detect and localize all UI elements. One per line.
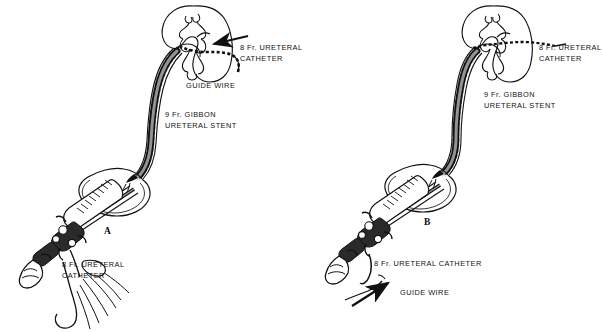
panel-a-ureteral-catheter-lower-label: 8 Fr. URETERAL CATHETER bbox=[62, 260, 125, 281]
label-line: 8 Fr. URETERAL bbox=[62, 260, 125, 271]
cystoscope-eyepiece bbox=[19, 243, 58, 289]
kidney-outline bbox=[162, 6, 232, 82]
ureteral-catheter-a bbox=[181, 36, 248, 72]
label-line: CATHETER bbox=[240, 54, 303, 65]
label-line: 8 Fr. URETERAL bbox=[240, 43, 303, 54]
panel-b-ureteral-catheter-label: 8 Fr. URETERAL CATHETER bbox=[539, 43, 602, 64]
ureteral-catheter-curl-b bbox=[360, 254, 371, 284]
panel-a-illustration bbox=[19, 6, 248, 329]
cystoscope-eyepiece bbox=[325, 239, 364, 285]
panel-a-ureteral-catheter-label: 8 Fr. URETERAL CATHETER bbox=[240, 43, 303, 64]
label-line: 8 Fr. URETERAL CATHETER bbox=[374, 259, 482, 270]
kidney-outline bbox=[462, 6, 532, 82]
panel-a-letter: A bbox=[104, 226, 111, 236]
panel-b-guide-wire-label: GUIDE WIRE bbox=[400, 288, 449, 299]
label-line: CATHETER bbox=[539, 54, 602, 65]
renal-calyces bbox=[176, 14, 206, 80]
label-line: 8 Fr. URETERAL bbox=[539, 43, 602, 54]
cystoscope-barrel bbox=[64, 180, 123, 229]
label-line: GUIDE WIRE bbox=[400, 288, 449, 299]
panel-b-letter: B bbox=[424, 217, 430, 227]
cystoscope-barrel bbox=[370, 176, 429, 225]
ureter-outline bbox=[440, 49, 482, 175]
label-line: 9 Fr. GIBBON bbox=[165, 110, 237, 121]
medical-illustration-figure: 8 Fr. URETERAL CATHETER GUIDE WIRE 9 Fr.… bbox=[0, 0, 603, 332]
label-line: 9 Fr. GIBBON bbox=[484, 90, 556, 101]
panel-a-guide-wire-label: GUIDE WIRE bbox=[186, 81, 235, 92]
label-line: GUIDE WIRE bbox=[186, 81, 235, 92]
panel-a-gibbon-stent-label: 9 Fr. GIBBON URETERAL STENT bbox=[165, 110, 237, 131]
label-line: URETERAL STENT bbox=[165, 121, 237, 132]
panel-b-ureteral-catheter-lower-label: 8 Fr. URETERAL CATHETER bbox=[374, 259, 482, 270]
label-line: URETERAL STENT bbox=[484, 101, 556, 112]
label-line: CATHETER bbox=[62, 271, 125, 282]
guide-wire-b bbox=[345, 275, 388, 306]
panel-b-gibbon-stent-label: 9 Fr. GIBBON URETERAL STENT bbox=[484, 90, 556, 111]
